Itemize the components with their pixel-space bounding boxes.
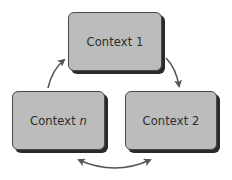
context-2-label: Context 2: [143, 114, 200, 128]
arrow-2-to-n-double: [79, 160, 150, 168]
context-n-label-prefix: Context: [30, 114, 80, 128]
context-n-label-variable: n: [80, 114, 87, 128]
context-1-box: Context 1: [68, 12, 162, 71]
context-1-label: Context 1: [87, 35, 144, 49]
context-n-label: Context n: [30, 114, 87, 128]
arrow-1-to-2: [166, 58, 179, 86]
context-2-box: Context 2: [125, 91, 217, 150]
context-n-box: Context n: [12, 91, 105, 150]
context-cycle-diagram: Context 1 Context n Context 2: [0, 0, 232, 180]
arrow-n-to-1: [48, 60, 64, 88]
